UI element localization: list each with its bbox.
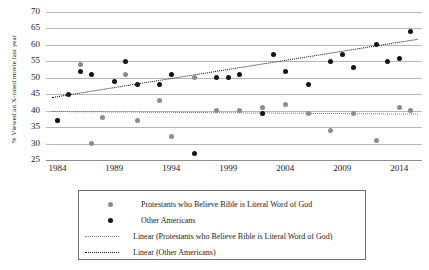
gridline: [46, 45, 422, 46]
y-axis-tick-label: 25: [14, 155, 40, 164]
y-axis-tick-label: 45: [14, 89, 40, 98]
x-axis-tick-label: 1984: [37, 163, 77, 173]
legend-line-swatch: [79, 252, 133, 253]
data-point: [192, 151, 197, 156]
x-axis-tick-label: 2009: [322, 163, 362, 173]
x-axis-tick-label: 2014: [379, 163, 419, 173]
legend-line-swatch: [79, 236, 133, 237]
dotted-line-icon: [85, 252, 119, 253]
data-point: [135, 118, 140, 123]
data-point: [385, 59, 390, 64]
data-point: [374, 42, 379, 47]
dotted-line-icon: [85, 236, 119, 237]
legend-item: Other Americans: [79, 212, 365, 228]
circle-marker-icon: [108, 202, 113, 207]
gridline: [46, 127, 422, 128]
data-point: [89, 141, 94, 146]
gridline: [46, 78, 422, 79]
y-axis-tick-label: 35: [14, 122, 40, 131]
data-point: [214, 75, 219, 80]
data-point: [226, 75, 231, 80]
data-point: [260, 111, 265, 116]
legend-item: Linear (Protestants who Believe Bible is…: [79, 228, 365, 244]
legend-label: Protestants who Believe Bible is Literal…: [141, 200, 312, 209]
legend-marker-swatch: [79, 202, 141, 207]
gridline: [46, 28, 422, 29]
data-point: [283, 102, 288, 107]
y-axis-tick-label: 70: [14, 7, 40, 16]
data-point: [123, 59, 128, 64]
trendline: [52, 38, 418, 97]
data-point: [157, 82, 162, 87]
x-axis-tick-label: 1989: [94, 163, 134, 173]
circle-marker-icon: [108, 218, 113, 223]
data-point: [306, 111, 311, 116]
x-axis-tick-label: 1999: [208, 163, 248, 173]
data-point: [397, 105, 402, 110]
data-point: [157, 98, 162, 103]
x-axis-line: [46, 160, 422, 161]
data-point: [283, 69, 288, 74]
data-point: [89, 72, 94, 77]
data-point: [78, 69, 83, 74]
data-point: [78, 62, 83, 67]
data-point: [397, 56, 402, 61]
data-point: [169, 72, 174, 77]
data-point: [328, 59, 333, 64]
legend-item: Linear (Other Americans): [79, 244, 365, 260]
data-point: [374, 138, 379, 143]
data-point: [328, 128, 333, 133]
data-point: [340, 52, 345, 57]
data-point: [351, 65, 356, 70]
y-axis-tick-label: 30: [14, 139, 40, 148]
data-point: [192, 75, 197, 80]
data-point: [271, 52, 276, 57]
legend-label: Linear (Protestants who Believe Bible is…: [133, 232, 332, 241]
data-point: [112, 79, 117, 84]
x-axis-tick-label: 1994: [151, 163, 191, 173]
y-axis-tick-label: 55: [14, 56, 40, 65]
x-axis-tick-label: 2004: [265, 163, 305, 173]
chart-figure: % Viewed an X-rated movie last year 7065…: [0, 0, 429, 270]
y-axis-tick-label: 40: [14, 106, 40, 115]
data-point: [306, 82, 311, 87]
gridline: [46, 12, 422, 13]
gridline: [46, 61, 422, 62]
data-point: [237, 72, 242, 77]
legend-item: Protestants who Believe Bible is Literal…: [79, 196, 365, 212]
data-point: [408, 29, 413, 34]
gridline: [46, 94, 422, 95]
data-point: [408, 108, 413, 113]
data-point: [260, 105, 265, 110]
gridline: [46, 144, 422, 145]
y-axis-tick-label: 65: [14, 23, 40, 32]
data-point: [351, 111, 356, 116]
y-axis-tick-label: 50: [14, 73, 40, 82]
data-point: [100, 115, 105, 120]
data-point: [169, 134, 174, 139]
data-point: [66, 92, 71, 97]
plot-area: 70656055504540353025: [46, 12, 422, 160]
data-point: [123, 72, 128, 77]
legend-label: Other Americans: [141, 216, 195, 225]
data-point: [135, 82, 140, 87]
data-point: [55, 118, 60, 123]
chart-legend: Protestants who Believe Bible is Literal…: [78, 190, 366, 260]
y-axis-tick-label: 60: [14, 40, 40, 49]
legend-marker-swatch: [79, 218, 141, 223]
legend-label: Linear (Other Americans): [133, 248, 216, 257]
